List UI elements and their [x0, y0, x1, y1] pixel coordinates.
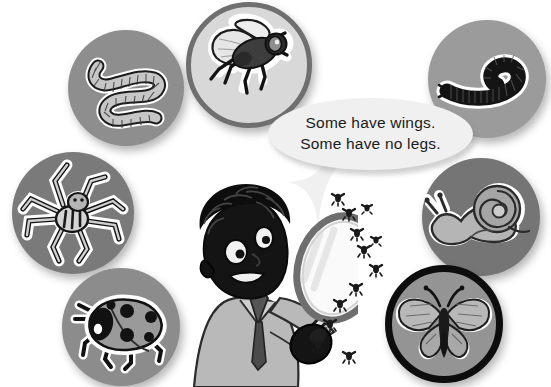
illustration-canvas: Some have wings. Some have no legs.	[0, 0, 551, 387]
fly-speck	[312, 194, 382, 364]
fly-swarm	[0, 0, 551, 387]
